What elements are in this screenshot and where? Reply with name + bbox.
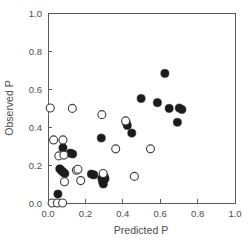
y-axis-title: Observed P bbox=[3, 80, 15, 135]
scatter-plot-figure: 0.00.20.40.60.81.0 0.00.20.40.60.81.0 Pr… bbox=[0, 0, 252, 241]
data-point-open bbox=[74, 165, 82, 173]
data-point-filled bbox=[153, 99, 161, 107]
data-point-open bbox=[60, 178, 68, 186]
x-tick-label: 0.4 bbox=[116, 208, 129, 219]
data-point-open bbox=[99, 170, 107, 178]
x-axis-ticks: 0.00.20.40.60.81.0 bbox=[41, 199, 241, 219]
data-points-layer bbox=[46, 69, 186, 207]
y-tick-label: 0.4 bbox=[29, 122, 42, 133]
data-point-filled bbox=[178, 105, 186, 113]
y-tick-label: 0.0 bbox=[29, 198, 42, 209]
data-point-open bbox=[59, 136, 67, 144]
data-point-open bbox=[112, 145, 120, 153]
data-point-filled bbox=[97, 134, 105, 142]
y-tick-label: 1.0 bbox=[29, 8, 42, 19]
data-point-open bbox=[50, 136, 58, 144]
x-tick-label: 0.8 bbox=[191, 208, 204, 219]
data-point-open bbox=[98, 111, 106, 119]
data-point-filled bbox=[137, 94, 145, 102]
data-point-filled bbox=[61, 169, 69, 177]
series-open bbox=[46, 104, 154, 207]
data-point-open bbox=[130, 172, 138, 180]
data-point-filled bbox=[161, 69, 169, 77]
x-tick-label: 0.6 bbox=[154, 208, 167, 219]
data-point-filled bbox=[90, 171, 98, 179]
data-point-open bbox=[68, 104, 76, 112]
data-point-open bbox=[59, 199, 67, 207]
y-tick-label: 0.6 bbox=[29, 84, 42, 95]
y-tick-label: 0.8 bbox=[29, 46, 42, 57]
data-point-open bbox=[122, 117, 130, 125]
plot-canvas: 0.00.20.40.60.81.0 0.00.20.40.60.81.0 Pr… bbox=[0, 0, 252, 241]
data-point-filled bbox=[173, 118, 181, 126]
data-point-filled bbox=[165, 104, 173, 112]
data-point-filled bbox=[128, 129, 136, 137]
series-filled bbox=[54, 69, 186, 198]
y-tick-label: 0.2 bbox=[29, 160, 42, 171]
x-tick-label: 1.0 bbox=[228, 208, 241, 219]
data-point-filled bbox=[54, 190, 62, 198]
x-tick-label: 0.0 bbox=[41, 208, 54, 219]
x-axis-title: Predicted P bbox=[114, 224, 168, 236]
data-point-filled bbox=[69, 150, 77, 158]
x-tick-label: 0.2 bbox=[79, 208, 92, 219]
data-point-open bbox=[46, 104, 54, 112]
data-point-open bbox=[60, 151, 68, 159]
data-point-open bbox=[146, 145, 154, 153]
data-point-open bbox=[77, 177, 85, 185]
